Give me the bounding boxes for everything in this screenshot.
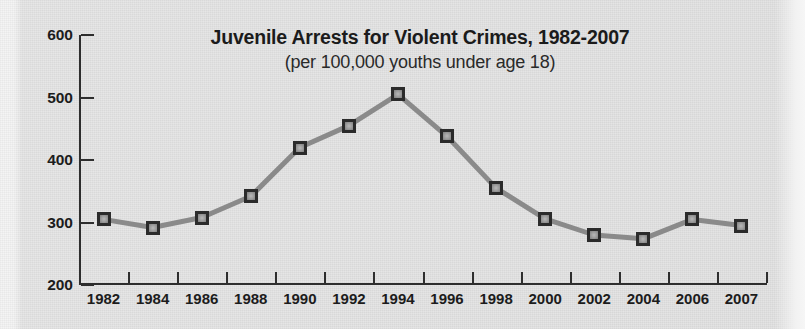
data-point-marker	[391, 87, 405, 101]
data-point-marker	[636, 232, 650, 246]
data-point-marker	[538, 212, 552, 226]
line-series-path	[0, 0, 805, 329]
data-point-marker	[587, 228, 601, 242]
data-point-marker	[97, 212, 111, 226]
data-point-marker	[685, 212, 699, 226]
data-point-marker	[244, 189, 258, 203]
data-point-marker	[489, 181, 503, 195]
data-point-marker	[734, 219, 748, 233]
data-point-marker	[195, 211, 209, 225]
data-point-marker	[342, 119, 356, 133]
data-point-marker	[440, 129, 454, 143]
data-point-marker	[293, 141, 307, 155]
data-point-marker	[146, 221, 160, 235]
chart-figure: Juvenile Arrests for Violent Crimes, 198…	[0, 0, 805, 329]
